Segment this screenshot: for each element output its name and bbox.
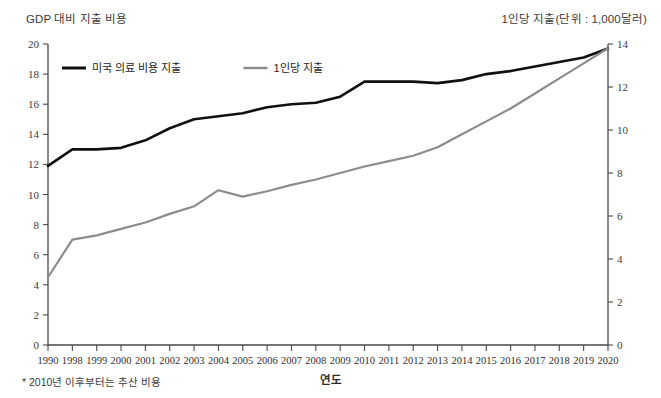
y-axis-tick-label: 8 — [34, 219, 40, 231]
legend-label-2: 1인당 지출 — [273, 62, 322, 74]
y2-axis-tick-label: 2 — [617, 296, 623, 308]
x-axis-tick-label: 2006 — [257, 355, 278, 366]
x-axis-tick-label: 2002 — [159, 355, 180, 366]
x-axis-title: 연도 — [0, 371, 661, 387]
y2-axis-tick-label: 0 — [617, 339, 623, 351]
y2-axis-tick-label: 14 — [617, 38, 629, 50]
y2-axis-tick-label: 10 — [617, 124, 629, 136]
x-axis-tick-label: 2018 — [549, 355, 570, 366]
chart-container: GDP 대비 지출 비용 1인당 지출(단위 : 1,000달러) 024681… — [0, 0, 661, 398]
x-axis-tick-label: 2020 — [598, 355, 619, 366]
y-axis-tick-label: 2 — [34, 309, 40, 321]
y-axis-tick-label: 6 — [34, 249, 40, 261]
x-axis-tick-label: 2000 — [111, 355, 132, 366]
x-axis-tick-label: 2015 — [476, 355, 497, 366]
y-axis-tick-label: 18 — [28, 68, 40, 80]
series-line-2 — [48, 48, 608, 277]
x-axis-tick-label: 1999 — [86, 355, 107, 366]
x-axis-tick-label: 2007 — [281, 355, 302, 366]
left-axis-title: GDP 대비 지출 비용 — [26, 10, 128, 26]
legend-label-1: 미국 의료 비용 지출 — [92, 62, 181, 74]
y-axis-tick-label: 12 — [28, 158, 39, 170]
x-axis-tick-label: 2014 — [451, 355, 473, 366]
y-axis-tick-label: 4 — [34, 279, 40, 291]
x-axis-tick-label: 2012 — [403, 355, 424, 366]
x-axis-tick-label: 2008 — [305, 355, 326, 366]
x-axis-tick-label: 1990 — [38, 355, 59, 366]
x-axis-tick-label: 2005 — [232, 355, 253, 366]
y2-axis-tick-label: 6 — [617, 210, 623, 222]
x-axis-tick-label: 2003 — [184, 355, 205, 366]
x-axis-tick-label: 2010 — [354, 355, 375, 366]
x-axis-tick-label: 2001 — [135, 355, 156, 366]
y-axis-tick-label: 14 — [28, 128, 40, 140]
x-axis-tick-label: 2011 — [379, 355, 400, 366]
x-axis-tick-label: 2017 — [524, 355, 545, 366]
y-axis-tick-label: 0 — [34, 339, 40, 351]
x-axis-tick-label: 2009 — [330, 355, 351, 366]
y2-axis-tick-label: 4 — [617, 253, 623, 265]
y-axis-tick-label: 16 — [28, 98, 40, 110]
line-chart-plot: 0246810121416182002468101214199019981999… — [0, 0, 661, 398]
x-axis-tick-label: 2004 — [208, 355, 230, 366]
x-axis-tick-label: 1998 — [62, 355, 83, 366]
x-axis-tick-label: 2019 — [573, 355, 594, 366]
x-axis-tick-label: 2013 — [427, 355, 448, 366]
y-axis-tick-label: 20 — [28, 38, 40, 50]
y2-axis-tick-label: 8 — [617, 167, 623, 179]
x-axis-tick-label: 2016 — [500, 355, 521, 366]
y-axis-tick-label: 10 — [28, 189, 40, 201]
right-axis-title: 1인당 지출(단위 : 1,000달러) — [501, 10, 647, 26]
y2-axis-tick-label: 12 — [617, 81, 628, 93]
